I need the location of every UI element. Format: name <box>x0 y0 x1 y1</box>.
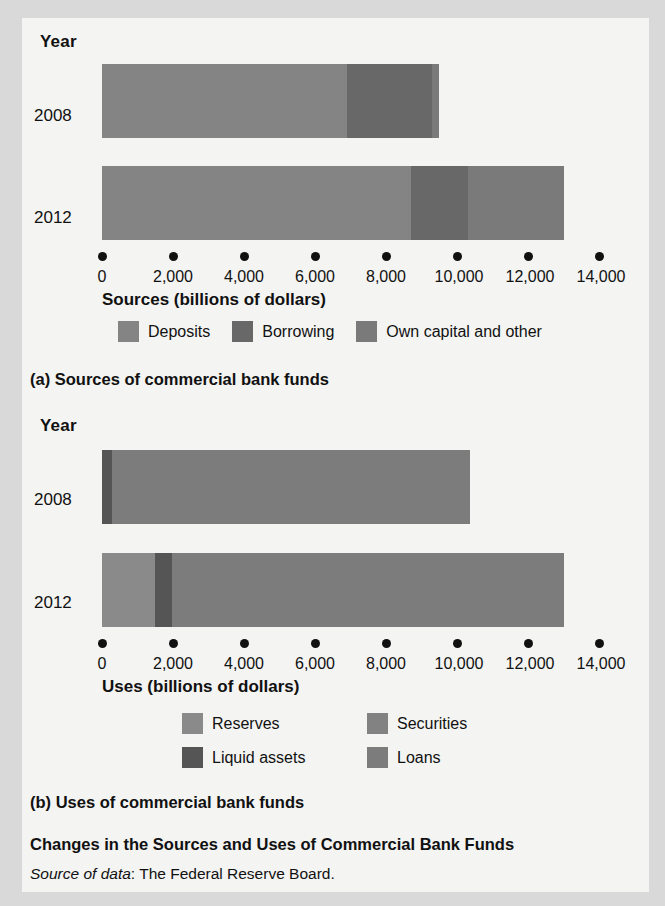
legend-item-borrowing: Borrowing <box>232 321 334 342</box>
panel-a-seg-borrowing-2012 <box>411 166 468 240</box>
legend-label-deposits: Deposits <box>148 323 210 341</box>
panel-b-tick-label-0: 0 <box>98 655 107 673</box>
panel-a-caption: (a) Sources of commercial bank funds <box>30 370 329 389</box>
panel-a-category-2008: 2008 <box>34 106 72 126</box>
panel-a-tick-dot-0 <box>98 252 107 261</box>
panel-b-seg-liquid-assets-2012 <box>155 553 172 627</box>
panel-a-seg-own-capital-2008 <box>432 64 439 138</box>
panel-b-tick-label-14000: 14,000 <box>577 655 626 673</box>
legend-item-loans: Loans <box>367 747 441 768</box>
panel-b-tick-dot-12000 <box>524 639 533 648</box>
panel-b-tick-label-6000: 6,000 <box>295 655 335 673</box>
panel-b-tick-label-4000: 4,000 <box>224 655 264 673</box>
legend-item-liquid-assets: Liquid assets <box>182 747 367 768</box>
panel-a-axis-title: Sources (billions of dollars) <box>102 290 326 310</box>
panel-b-tick-dot-8000 <box>382 639 391 648</box>
legend-swatch-liquid-assets-icon <box>182 747 203 768</box>
panel-a-seg-own-capital-2012 <box>468 166 564 240</box>
panel-b-axis-title: Uses (billions of dollars) <box>102 677 299 697</box>
panel-a-tick-dot-14000 <box>595 252 604 261</box>
panel-a-legend: Deposits Borrowing Own capital and other <box>118 321 542 342</box>
figure-source-line: Source of data: The Federal Reserve Boar… <box>30 865 335 883</box>
panel-b-bar-2012 <box>102 553 564 627</box>
panel-a-tick-label-0: 0 <box>98 268 107 286</box>
panel-b-seg-securities-loans-2012 <box>172 553 564 627</box>
panel-b-bar-2008 <box>102 450 470 524</box>
panel-a-tick-label-12000: 12,000 <box>506 268 555 286</box>
legend-swatch-reserves-icon <box>182 713 203 734</box>
panel-b-tick-dot-10000 <box>453 639 462 648</box>
panel-b-year-header: Year <box>40 416 77 436</box>
panel-a-tick-dot-10000 <box>453 252 462 261</box>
panel-b-caption: (b) Uses of commercial bank funds <box>30 793 304 812</box>
panel-a-year-header: Year <box>40 32 77 52</box>
panel-b-tick-dot-2000 <box>169 639 178 648</box>
legend-label-own-capital: Own capital and other <box>386 323 542 341</box>
panel-a-seg-borrowing-2008 <box>347 64 432 138</box>
panel-a-category-2012: 2012 <box>34 208 72 228</box>
panel-a-seg-deposits-2008 <box>102 64 347 138</box>
figure-title: Changes in the Sources and Uses of Comme… <box>30 835 514 854</box>
legend-swatch-borrowing-icon <box>232 321 253 342</box>
panel-b-tick-label-12000: 12,000 <box>506 655 555 673</box>
panel-b-seg-reserves-2012 <box>102 553 155 627</box>
panel-b-legend-row-1: Reserves Securities <box>182 713 467 734</box>
figure-card: Year 2008 2012 <box>22 18 649 892</box>
legend-label-loans: Loans <box>397 749 441 767</box>
legend-label-liquid-assets: Liquid assets <box>212 749 305 767</box>
legend-item-reserves: Reserves <box>182 713 367 734</box>
panel-b-legend-row-2: Liquid assets Loans <box>182 747 441 768</box>
legend-swatch-deposits-icon <box>118 321 139 342</box>
source-text: : The Federal Reserve Board. <box>131 865 335 882</box>
legend-item-securities: Securities <box>367 713 467 734</box>
panel-a-tick-label-14000: 14,000 <box>577 268 626 286</box>
panel-a-tick-label-6000: 6,000 <box>295 268 335 286</box>
panel-a-tick-dot-12000 <box>524 252 533 261</box>
panel-a-seg-deposits-2012 <box>102 166 411 240</box>
panel-a-tick-label-8000: 8,000 <box>366 268 406 286</box>
panel-b-tick-dot-6000 <box>311 639 320 648</box>
panel-b-category-2008: 2008 <box>34 490 72 510</box>
panel-b-tick-label-2000: 2,000 <box>153 655 193 673</box>
legend-swatch-loans-icon <box>367 747 388 768</box>
legend-swatch-securities-icon <box>367 713 388 734</box>
panel-a-tick-dot-8000 <box>382 252 391 261</box>
panel-a-bar-2008 <box>102 64 439 138</box>
panel-a-tick-dot-4000 <box>240 252 249 261</box>
legend-label-securities: Securities <box>397 715 467 733</box>
panel-a-tick-dot-2000 <box>169 252 178 261</box>
page-background: Year 2008 2012 <box>0 0 665 906</box>
panel-b-seg-liquid-assets-2008 <box>102 450 112 524</box>
legend-label-borrowing: Borrowing <box>262 323 334 341</box>
panel-a-tick-label-4000: 4,000 <box>224 268 264 286</box>
legend-label-reserves: Reserves <box>212 715 280 733</box>
legend-item-deposits: Deposits <box>118 321 210 342</box>
legend-swatch-own-capital-icon <box>356 321 377 342</box>
panel-b-tick-dot-0 <box>98 639 107 648</box>
panel-b-tick-dot-14000 <box>595 639 604 648</box>
panel-b-category-2012: 2012 <box>34 593 72 613</box>
panel-a-tick-dot-6000 <box>311 252 320 261</box>
panel-b-seg-securities-loans-2008 <box>112 450 470 524</box>
panel-a-tick-label-2000: 2,000 <box>153 268 193 286</box>
panel-a-bar-2012 <box>102 166 564 240</box>
panel-a-tick-label-10000: 10,000 <box>435 268 484 286</box>
source-prefix: Source of data <box>30 865 131 882</box>
panel-b-tick-label-8000: 8,000 <box>366 655 406 673</box>
legend-item-own-capital: Own capital and other <box>356 321 542 342</box>
panel-b-tick-dot-4000 <box>240 639 249 648</box>
panel-b-tick-label-10000: 10,000 <box>435 655 484 673</box>
